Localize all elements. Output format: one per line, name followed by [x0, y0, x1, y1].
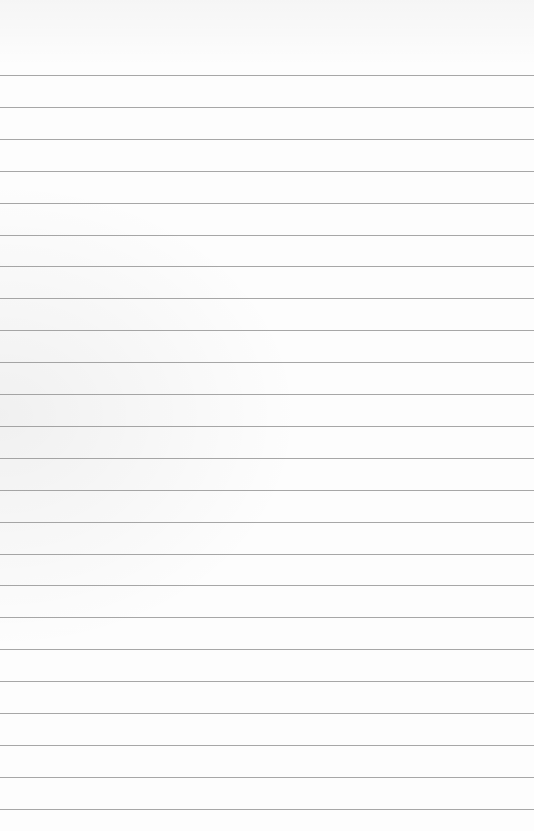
ruled-line: [0, 681, 534, 682]
ruled-line: [0, 394, 534, 395]
ruled-line: [0, 809, 534, 810]
ruled-line: [0, 362, 534, 363]
ruled-line: [0, 490, 534, 491]
ruled-line: [0, 298, 534, 299]
ruled-line: [0, 554, 534, 555]
ruled-line: [0, 330, 534, 331]
ruled-line: [0, 458, 534, 459]
ruled-line: [0, 266, 534, 267]
ruled-line: [0, 777, 534, 778]
ruled-line: [0, 617, 534, 618]
ruled-line: [0, 171, 534, 172]
ruled-line: [0, 649, 534, 650]
ruled-line: [0, 203, 534, 204]
ruled-line: [0, 107, 534, 108]
ruled-line: [0, 139, 534, 140]
ruled-line: [0, 522, 534, 523]
ruled-line: [0, 745, 534, 746]
lined-paper-sheet: [0, 0, 534, 831]
ruled-line: [0, 585, 534, 586]
ruled-line: [0, 713, 534, 714]
ruled-line: [0, 235, 534, 236]
ruled-line: [0, 75, 534, 76]
ruled-line: [0, 426, 534, 427]
